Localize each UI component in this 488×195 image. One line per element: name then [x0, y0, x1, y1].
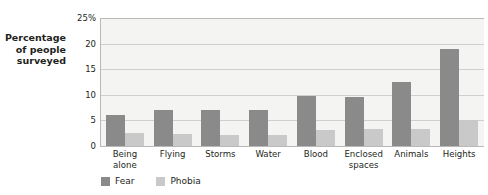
y-axis-title: Percentageof peoplesurveyed — [4, 32, 66, 67]
y-axis-title-line: surveyed — [4, 55, 66, 67]
y-axis-tick-label: 10 — [64, 90, 96, 100]
bar-group — [101, 18, 149, 146]
x-axis-tick-label: Animals — [388, 149, 436, 170]
y-axis-ticks: 0510152025% — [62, 18, 96, 146]
legend-label: Fear — [115, 176, 134, 186]
y-axis-tick-label: 15 — [64, 64, 96, 74]
bar-phobia — [268, 135, 287, 146]
x-axis-tick-label: Flying — [149, 149, 197, 170]
bar-chart: faint show-through text from reverse sid… — [0, 0, 488, 195]
bar-phobia — [364, 129, 383, 146]
legend-label: Phobia — [170, 176, 200, 186]
x-axis-tick-label-line: Animals — [388, 149, 436, 160]
bar-group — [340, 18, 388, 146]
chart-legend: FearPhobia — [101, 176, 483, 186]
x-axis-tick-label-line: Being — [101, 149, 149, 160]
x-axis-tick-label: Blood — [292, 149, 340, 170]
legend-swatch-icon — [101, 177, 110, 186]
bar-phobia — [459, 120, 478, 146]
x-axis-tick-label-line: alone — [101, 160, 149, 171]
bar-phobia — [220, 135, 239, 146]
legend-swatch-icon — [156, 177, 165, 186]
bar-group — [197, 18, 245, 146]
y-axis-title-line: of people — [4, 44, 66, 56]
bar-fear — [201, 110, 220, 146]
legend-item-phobia[interactable]: Phobia — [156, 176, 200, 186]
bar-fear — [392, 82, 411, 146]
bar-phobia — [316, 130, 335, 146]
x-axis-tick-label: Storms — [197, 149, 245, 170]
bar-fear — [345, 97, 364, 146]
y-axis-tick-label: 20 — [64, 39, 96, 49]
bar-phobia — [125, 133, 144, 146]
bar-group — [244, 18, 292, 146]
x-axis-tick-label: Beingalone — [101, 149, 149, 170]
y-axis-title-line: Percentage — [4, 32, 66, 44]
bar-phobia — [173, 134, 192, 146]
y-axis-tick-label: 5 — [64, 115, 96, 125]
x-axis-tick-label-line: Enclosed — [340, 149, 388, 160]
x-axis-tick-label-line: Blood — [292, 149, 340, 160]
bar-group — [292, 18, 340, 146]
x-axis-tick-label: Heights — [435, 149, 483, 170]
x-axis-tick-label-line: Water — [244, 149, 292, 160]
bar-fear — [297, 96, 316, 146]
bars-layer — [101, 18, 483, 146]
bar-fear — [154, 110, 173, 146]
y-axis-tick-label: 25% — [64, 13, 96, 23]
x-axis-tick-label-line: Storms — [197, 149, 245, 160]
bar-phobia — [411, 129, 430, 146]
x-axis-tick-label-line: Flying — [149, 149, 197, 160]
x-axis-tick-label-line: spaces — [340, 160, 388, 171]
x-axis-tick-label-line: Heights — [435, 149, 483, 160]
legend-item-fear[interactable]: Fear — [101, 176, 134, 186]
bar-fear — [440, 49, 459, 146]
x-axis-tick-label: Water — [244, 149, 292, 170]
y-axis-tick-label: 0 — [64, 141, 96, 151]
bar-group — [149, 18, 197, 146]
x-axis-tick-label: Enclosedspaces — [340, 149, 388, 170]
bar-fear — [249, 110, 268, 146]
bar-fear — [106, 115, 125, 146]
bar-group — [388, 18, 436, 146]
bar-group — [435, 18, 483, 146]
x-axis-labels: BeingaloneFlyingStormsWaterBloodEnclosed… — [101, 149, 483, 170]
